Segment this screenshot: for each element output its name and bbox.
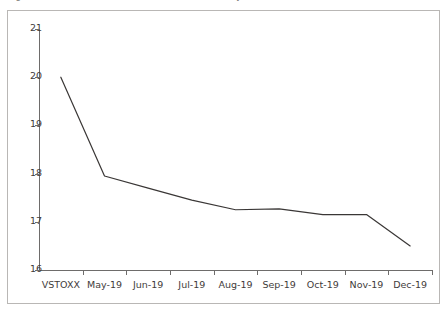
figure-caption: Figure 3: VSTOXX futures term structure … [8, 0, 326, 1]
chart-page: Figure 3: VSTOXX futures term structure … [0, 0, 447, 313]
figure-frame: 161718192021 VSTOXXMay-19Jun-19Jul-19Aug… [7, 10, 440, 304]
figure-caption-strip: Figure 3: VSTOXX futures term structure … [0, 0, 447, 10]
series-line-vstoxx [61, 77, 410, 246]
plot-area: 161718192021 VSTOXXMay-19Jun-19Jul-19Aug… [8, 11, 441, 305]
series-line-layer [8, 11, 441, 305]
